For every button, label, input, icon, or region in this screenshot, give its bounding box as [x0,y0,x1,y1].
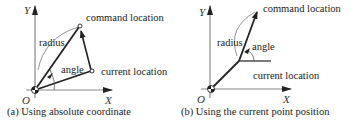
caption-b: (b) Using the current point position [181,106,329,117]
current-location-label: current location [253,70,319,81]
origin-marker [35,90,39,94]
radius-label: radius [217,37,243,48]
command-point [78,24,82,28]
caption-a: (a) Using absolute coordinate [7,106,131,117]
angle-label: angle [61,64,84,75]
angle-arc [50,70,55,90]
origin-marker [211,89,215,93]
angle-label: angle [252,41,275,52]
x-axis-label: X [283,93,290,105]
origin-label: O [197,93,205,105]
y-axis-label: Y [24,4,30,16]
panel-absolute-coordinate: Y X O command location current location … [0,0,175,125]
angle-arrowhead [47,73,53,79]
current-location-label: current location [101,66,167,77]
y-axis-label: Y [199,6,205,18]
command-location-label: command location [263,3,341,14]
origin-label: O [22,94,30,106]
panel-current-point: Y X O command location current location … [175,0,351,125]
x-axis-label: X [105,94,112,106]
current-line [211,61,239,89]
radius-label: radius [39,37,65,48]
current-point [90,69,94,73]
command-location-label: command location [86,12,164,23]
angle-arrowhead [244,48,250,54]
